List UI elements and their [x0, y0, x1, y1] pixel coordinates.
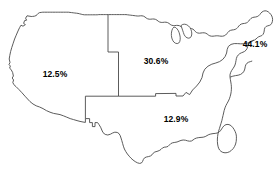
region-label-midwest: 30.6% [144, 57, 169, 66]
us-national-outline [9, 11, 273, 164]
region-label-northeast: 44.1% [243, 40, 268, 49]
region-label-west: 12.5% [43, 70, 68, 79]
us-map-outline-svg [0, 0, 280, 183]
us-region-percentage-map: 12.5% 30.6% 12.9% 44.1% [0, 0, 280, 183]
region-label-south: 12.9% [164, 115, 189, 124]
national-boundary-group [9, 11, 273, 164]
